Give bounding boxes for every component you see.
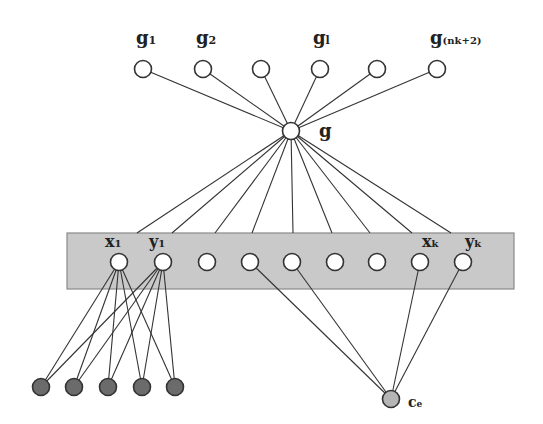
edge	[291, 69, 320, 131]
node-n6	[327, 254, 344, 271]
node-n3	[199, 254, 216, 271]
label-g_nk2: g(nk+2)	[430, 27, 482, 48]
graph-diagram: g1g2glg(nk+2)gx1y1xkykce	[0, 0, 543, 424]
node-xk	[412, 254, 429, 271]
edge	[291, 131, 451, 233]
edge	[291, 131, 332, 233]
node-n4	[242, 254, 259, 271]
node-y1	[155, 254, 172, 271]
edge	[252, 131, 291, 233]
edges-top-to-center	[143, 69, 437, 131]
node-g5	[369, 61, 386, 78]
node-g2	[195, 61, 212, 78]
node-d2	[66, 379, 83, 396]
node-g1	[135, 61, 152, 78]
label-g2: g2	[196, 27, 216, 48]
node-g_nk2	[429, 61, 446, 78]
node-g3	[253, 61, 270, 78]
node-x1	[111, 254, 128, 271]
edges-center-to-box	[137, 131, 451, 233]
node-d5	[167, 379, 184, 396]
node-d4	[134, 379, 151, 396]
edge	[137, 131, 291, 233]
edge	[291, 131, 370, 233]
edge	[215, 131, 291, 233]
edge	[291, 131, 293, 233]
edge	[172, 131, 291, 233]
label-g1: g1	[136, 27, 156, 48]
label-center-g: g	[319, 120, 332, 141]
edge	[291, 131, 412, 233]
node-n7	[369, 254, 386, 271]
node-d1	[33, 379, 50, 396]
node-gl	[312, 61, 329, 78]
label-ce: ce	[408, 394, 423, 410]
label-gl: gl	[313, 27, 330, 48]
edge	[261, 69, 291, 131]
node-center-g	[283, 123, 300, 140]
node-ce	[383, 391, 400, 408]
node-yk	[455, 254, 472, 271]
labels-layer: g1g2glg(nk+2)gx1y1xkykce	[105, 27, 482, 410]
node-d3	[100, 379, 117, 396]
node-n5	[284, 254, 301, 271]
